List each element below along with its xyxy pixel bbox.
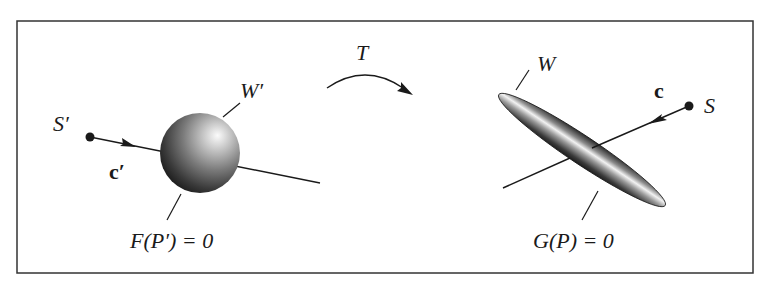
arrow-icon-transform	[397, 82, 413, 95]
label-c-prime: c′	[109, 159, 125, 184]
ellipsoid-W	[491, 83, 673, 217]
source-dot-S	[685, 102, 694, 111]
leader-W-prime	[223, 103, 240, 117]
label-S-prime: S′	[53, 111, 70, 136]
source-dot-S-prime	[86, 133, 95, 142]
label-S: S	[704, 93, 715, 118]
sphere-W-prime	[160, 113, 240, 193]
diagram-canvas: S′ c′ W′ F(P′) = 0 T W c S G(P) = 0	[0, 0, 770, 284]
ray-line-c-back	[503, 158, 570, 188]
ray-line-c-front	[592, 106, 689, 148]
transform-arc	[327, 75, 403, 88]
arrow-icon-c-prime	[120, 138, 136, 147]
leader-F	[167, 194, 181, 220]
transform-T: T	[327, 40, 413, 95]
figure-frame	[17, 21, 753, 273]
label-F-equation: F(P′) = 0	[129, 228, 213, 253]
leader-G	[582, 191, 598, 220]
leader-W	[516, 70, 529, 90]
left-scene: S′ c′ W′ F(P′) = 0	[53, 78, 320, 253]
label-c: c	[654, 78, 664, 103]
label-G-equation: G(P) = 0	[533, 228, 614, 253]
label-T: T	[356, 40, 370, 65]
arrow-icon-c	[648, 114, 667, 124]
label-W: W	[537, 51, 557, 76]
label-W-prime: W′	[240, 78, 264, 103]
right-scene: W c S G(P) = 0	[491, 51, 715, 253]
